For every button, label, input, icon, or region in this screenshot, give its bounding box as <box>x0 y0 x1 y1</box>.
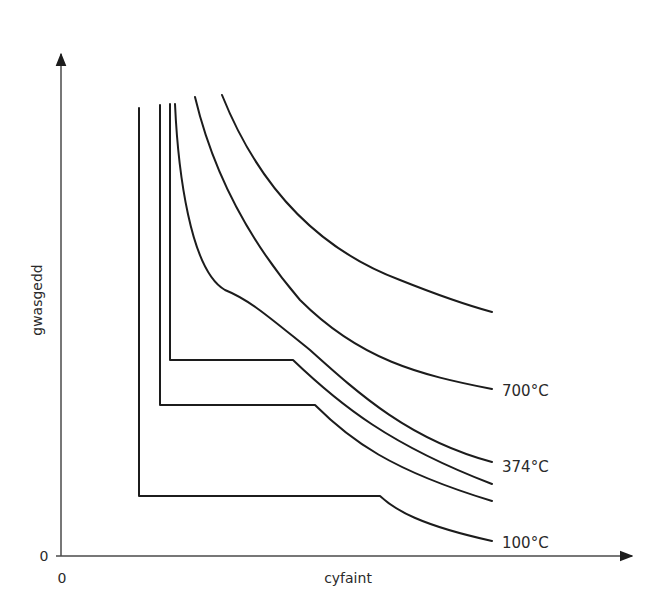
isotherm-curve-100c <box>139 108 492 541</box>
x-axis-label: cyfaint <box>324 570 372 586</box>
label-100c: 100°C <box>502 534 549 552</box>
y-origin-label: 0 <box>40 548 49 564</box>
isotherm-curve-2 <box>160 105 492 501</box>
label-374c: 374°C <box>502 458 549 476</box>
x-origin-label: 0 <box>58 570 67 586</box>
label-700c: 700°C <box>502 382 549 400</box>
isotherm-chart: 700°C 374°C 100°C cyfaint gwasgedd 0 0 <box>0 0 665 615</box>
isotherm-curve-3 <box>170 104 492 484</box>
y-axis-label: gwasgedd <box>29 264 45 335</box>
isotherm-curve-700c <box>195 97 492 389</box>
isotherm-curve-6 <box>222 95 492 312</box>
isotherm-curve-374c <box>175 104 492 462</box>
